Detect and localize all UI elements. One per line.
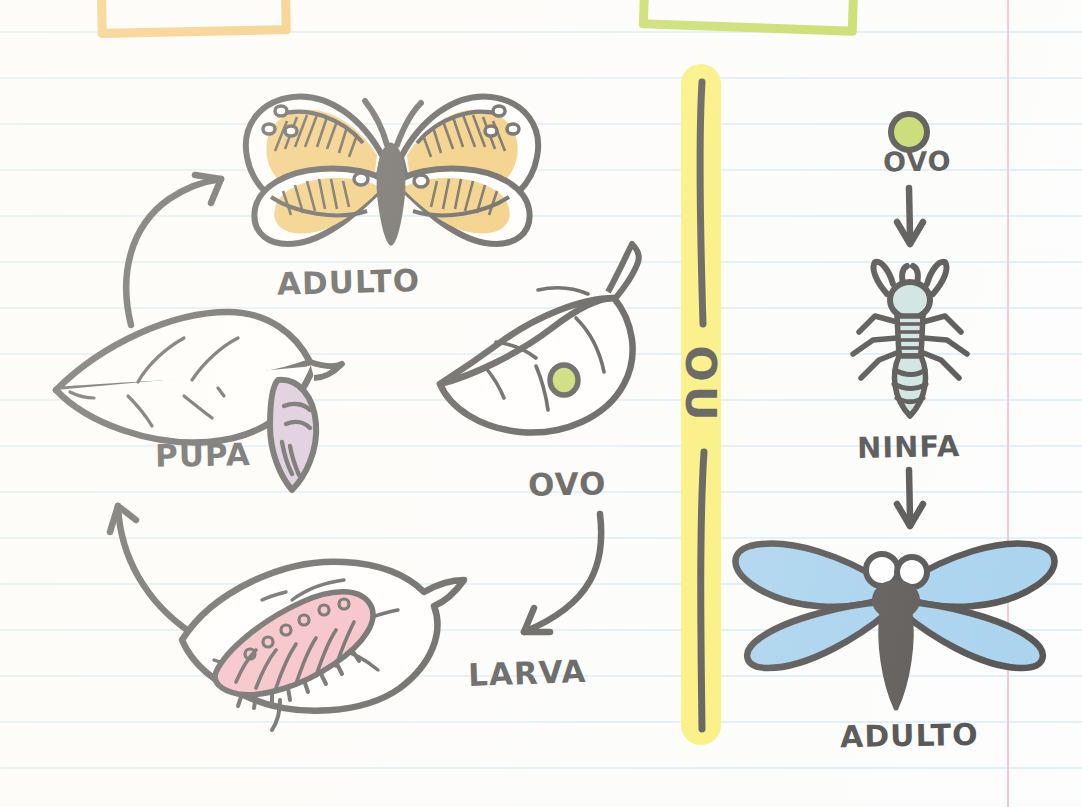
arrow-ovo-to-ninfa (890, 186, 930, 248)
leaf-with-egg-icon (432, 236, 662, 456)
label-adulto-dragonfly: ADULTO (840, 717, 979, 754)
label-ninfa: NINFA (857, 429, 961, 465)
label-larva: LARVA (467, 653, 587, 693)
dragonfly-icon (716, 530, 1066, 715)
ou-divider-line-bottom (694, 448, 714, 733)
arrow-ninfa-to-adulto (890, 468, 930, 530)
ou-divider-line-top (694, 78, 714, 328)
label-ovo-leaf: OVO (528, 465, 607, 502)
nymph-icon (845, 258, 975, 423)
caterpillar-icon (176, 548, 496, 733)
ou-divider-label: OU (646, 348, 756, 422)
label-pupa: PUPA (155, 436, 251, 474)
label-ovo-egg: OVO (883, 145, 952, 177)
arrow-ovo-to-larva (490, 508, 630, 658)
notebook-page: ADULTO (0, 0, 1082, 807)
label-adulto-butterfly: ADULTO (277, 262, 421, 302)
green-highlight-box (639, 0, 860, 36)
orange-highlight-box (96, 0, 291, 38)
